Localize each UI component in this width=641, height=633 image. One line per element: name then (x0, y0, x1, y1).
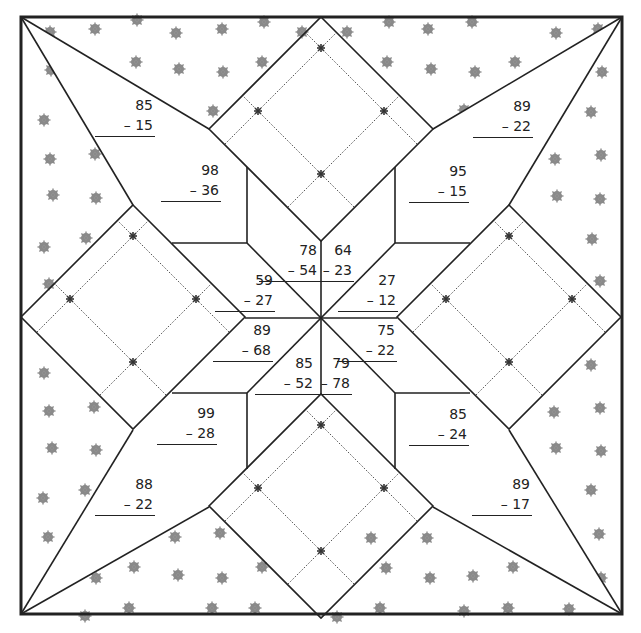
problem-star-59-27: 59 – 27 (215, 270, 275, 312)
minuend: 85 (95, 95, 155, 115)
problem-kite-bottom-left: 88 – 22 (95, 474, 155, 516)
subtrahend: – 28 (157, 423, 217, 445)
problem-star-27-12: 27 – 12 (338, 270, 398, 312)
problem-kite-bottom-right: 89 – 17 (472, 474, 532, 516)
subtrahend: – 24 (409, 424, 469, 446)
problem-pentagon-top-right: 95 – 15 (409, 161, 469, 203)
subtrahend: – 78 (292, 373, 352, 395)
subtrahend: – 15 (409, 181, 469, 203)
minuend: 85 (409, 404, 469, 424)
problem-kite-top-left: 85 – 15 (95, 95, 155, 137)
minuend: 89 (473, 96, 533, 116)
minuend: 27 (338, 270, 398, 290)
subtrahend: – 22 (95, 494, 155, 516)
minuend: 64 (294, 240, 354, 260)
problem-pentagon-bottom-right: 85 – 24 (409, 404, 469, 446)
minuend: 79 (292, 353, 352, 373)
subtrahend: – 27 (215, 290, 275, 312)
subtrahend: – 36 (161, 180, 221, 202)
minuend: 59 (215, 270, 275, 290)
minuend: 95 (409, 161, 469, 181)
minuend: 98 (161, 160, 221, 180)
problem-pentagon-top-left: 98 – 36 (161, 160, 221, 202)
subtrahend: – 12 (338, 290, 398, 312)
minuend: 89 (213, 320, 273, 340)
problem-kite-top-right: 89 – 22 (473, 96, 533, 138)
problem-pentagon-bottom-left: 99 – 28 (157, 403, 217, 445)
subtrahend: – 17 (472, 494, 532, 516)
minuend: 88 (95, 474, 155, 494)
problem-star-79-78: 79 – 78 (292, 353, 352, 395)
minuend: 99 (157, 403, 217, 423)
minuend: 89 (472, 474, 532, 494)
subtrahend: – 22 (473, 116, 533, 138)
minuend: 75 (337, 320, 397, 340)
subtrahend: – 15 (95, 115, 155, 137)
